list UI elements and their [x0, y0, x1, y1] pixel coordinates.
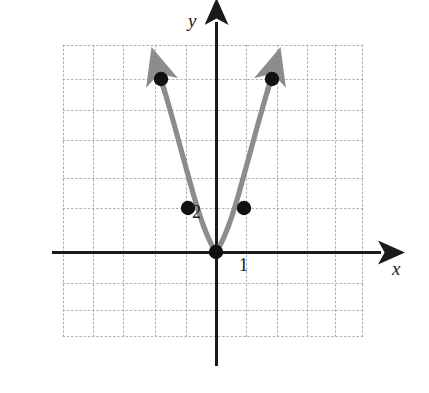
data-point	[209, 245, 223, 259]
graph-figure: y x 1 2	[0, 0, 429, 393]
grid-vertical-lines	[64, 45, 363, 337]
y-axis-label: y	[188, 10, 196, 32]
grid-horizontal-lines	[63, 46, 363, 337]
x-tick-label-1: 1	[239, 255, 248, 276]
coordinate-plane-graph	[0, 0, 429, 393]
y-tick-label-2: 2	[192, 202, 201, 223]
x-axis-label: x	[392, 258, 400, 280]
grid	[63, 45, 363, 337]
data-point	[265, 72, 279, 86]
axes	[52, 22, 381, 366]
data-point	[237, 201, 251, 215]
data-point	[154, 72, 168, 86]
